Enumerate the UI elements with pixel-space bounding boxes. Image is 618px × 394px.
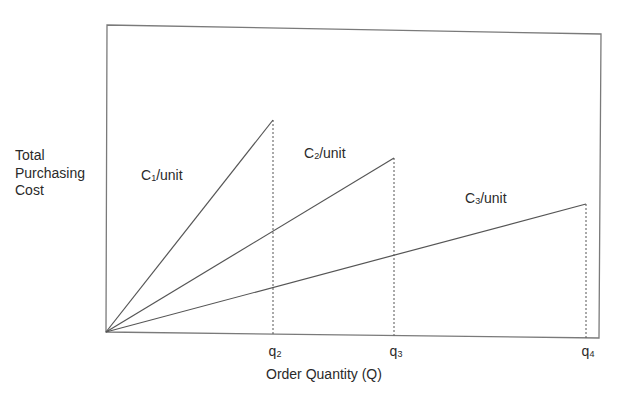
- series-label-c3: C3/unit: [465, 190, 507, 209]
- y-axis-label-line-2: Purchasing: [15, 165, 85, 183]
- x-tick-q3: q3: [390, 343, 403, 359]
- cost-line-c1: [106, 120, 273, 332]
- y-axis-label-line-3: Cost: [15, 182, 85, 200]
- series-label-c2: C2/unit: [304, 145, 346, 164]
- series-label-c1: C1/unit: [141, 167, 183, 186]
- cost-line-c3: [106, 204, 586, 332]
- x-axis-label: Order Quantity (Q): [266, 366, 382, 382]
- cost-lines: [106, 120, 586, 332]
- x-tick-q4: q4: [582, 343, 595, 359]
- y-axis-label-line-1: Total: [15, 147, 85, 165]
- x-tick-q2: q2: [269, 343, 282, 359]
- y-axis-label: Total Purchasing Cost: [15, 147, 85, 200]
- chart-canvas: [0, 0, 618, 394]
